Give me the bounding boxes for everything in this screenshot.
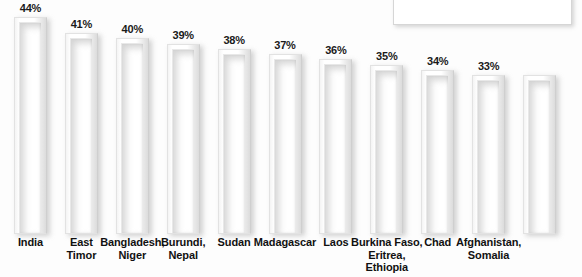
bar[interactable] (14, 17, 47, 234)
bar-group: 39% (167, 0, 200, 234)
bar[interactable] (116, 38, 149, 234)
bar-value-label: 37% (269, 39, 302, 51)
bar[interactable] (167, 44, 200, 235)
bar-value-label: 41% (65, 18, 98, 30)
bar-value-label: 35% (370, 50, 403, 62)
x-axis-label-line: Nepal (137, 249, 229, 262)
bar[interactable] (523, 75, 556, 234)
x-axis-label: Afghanistan,Somalia (443, 236, 535, 261)
bar-group: 40% (116, 0, 149, 234)
bar-value-label: 36% (319, 44, 352, 56)
bar[interactable] (421, 70, 454, 234)
bar-group: 36% (319, 0, 352, 234)
bar[interactable] (370, 65, 403, 234)
bar-value-label: 34% (421, 55, 454, 67)
bar-group: 41% (65, 0, 98, 234)
bar[interactable] (472, 75, 505, 234)
bar-group: 34% (421, 0, 454, 234)
x-axis-label-line: Ethiopia (341, 261, 433, 274)
bar-group: 35% (370, 0, 403, 234)
x-axis-label-line: Somalia (443, 249, 535, 262)
x-axis-label-line: Afghanistan, (443, 236, 535, 249)
bar[interactable] (269, 54, 302, 234)
bar[interactable] (319, 59, 352, 234)
bar-group: 44% (14, 0, 47, 234)
bar-group: 38% (218, 0, 251, 234)
bar-chart: 44%41%40%39%38%37%36%35%34%33% IndiaEast… (0, 0, 582, 277)
x-axis-label-line: Eritrea, (341, 249, 433, 262)
bar-value-label: 39% (167, 29, 200, 41)
x-axis-labels: IndiaEastTimorBangladesh,NigerBurundi,Ne… (0, 236, 582, 277)
bar-group: 33% (472, 0, 505, 234)
bar-value-label: 38% (218, 34, 251, 46)
bar-value-label: 40% (116, 23, 149, 35)
bar[interactable] (65, 33, 98, 234)
bar-value-label: 33% (472, 60, 505, 72)
bar-group: 37% (269, 0, 302, 234)
bar-group (523, 0, 556, 234)
bar[interactable] (218, 49, 251, 234)
bar-value-label: 44% (14, 2, 47, 14)
plot-area: 44%41%40%39%38%37%36%35%34%33% (0, 0, 582, 234)
